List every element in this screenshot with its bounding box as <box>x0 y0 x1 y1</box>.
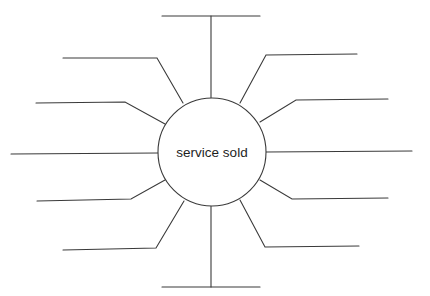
spoke-lower-right-2 <box>240 200 359 247</box>
spoke-lower-left-1 <box>37 180 165 201</box>
center-label: service sold <box>176 145 247 160</box>
spoke-upper-right-1 <box>240 54 357 103</box>
spoke-upper-left-2 <box>36 102 165 124</box>
spoke-upper-right-2 <box>260 99 388 122</box>
spoke-upper-left-1 <box>63 58 183 103</box>
spoke-lower-right-1 <box>260 180 388 199</box>
spoke-right <box>266 151 412 152</box>
spider-diagram: service sold <box>0 0 430 296</box>
spoke-lower-left-2 <box>63 201 184 250</box>
spoke-left <box>11 153 158 154</box>
